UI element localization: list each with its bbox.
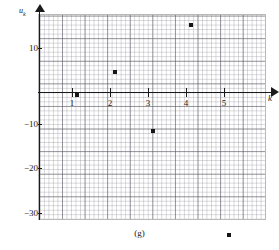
y-tick-group: 10 −10 −20 −30	[0, 0, 38, 250]
x-axis-arrow-icon	[271, 87, 279, 97]
x-tick-label-3: 3	[141, 99, 155, 108]
plot-grid-area	[38, 14, 266, 220]
data-point-k4	[189, 23, 193, 27]
data-point-k1	[75, 93, 79, 97]
y-tick-mark-minus30	[38, 213, 42, 214]
x-tick-label-2: 2	[103, 99, 117, 108]
x-tick-label-4: 4	[179, 99, 193, 108]
x-axis-line	[38, 92, 273, 93]
x-tick-mark-1	[72, 88, 73, 97]
figure-caption: (g)	[0, 228, 279, 238]
y-tick-mark-10	[38, 48, 42, 49]
x-tick-label-5: 5	[217, 99, 231, 108]
x-tick-mark-5	[224, 88, 225, 97]
x-tick-label-1: 1	[65, 99, 79, 108]
y-tick-label-minus10: −10	[2, 120, 38, 129]
y-tick-label-10: 10	[2, 44, 38, 53]
data-point-k2	[113, 70, 117, 74]
y-axis-line	[39, 12, 40, 220]
x-tick-mark-2	[110, 88, 111, 97]
data-point-k3	[151, 129, 155, 133]
figure-g: uk k 10 −10 −20 −30 1 2 3 4 5 (g)	[0, 0, 279, 250]
x-tick-mark-3	[148, 88, 149, 97]
x-axis-label: k	[268, 94, 272, 103]
x-tick-mark-4	[186, 88, 187, 97]
y-tick-mark-minus10	[38, 124, 42, 125]
y-tick-label-minus20: −20	[2, 164, 38, 173]
y-tick-label-minus30: −30	[2, 209, 38, 218]
y-tick-mark-minus20	[38, 168, 42, 169]
